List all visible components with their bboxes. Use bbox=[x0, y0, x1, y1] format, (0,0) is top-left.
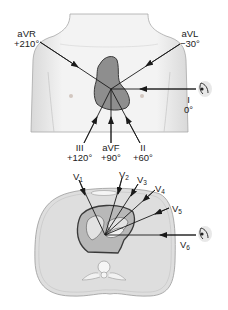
label-avf: aVF +90° bbox=[101, 143, 121, 163]
label-avl: aVL −30° bbox=[180, 29, 200, 49]
label-v6: V6 bbox=[180, 240, 190, 253]
lead-angle: +210° bbox=[14, 39, 39, 49]
label-ii: II +60° bbox=[133, 143, 153, 163]
lead-angle: +60° bbox=[133, 153, 153, 163]
lead-angle: +90° bbox=[101, 153, 121, 163]
lead-angle: 0° bbox=[184, 105, 193, 115]
thorax-cross-section bbox=[35, 188, 175, 296]
label-v2: V2 bbox=[119, 170, 129, 183]
label-v1: V1 bbox=[73, 172, 83, 185]
label-v4: V4 bbox=[155, 184, 165, 197]
lead-angle: +120° bbox=[67, 153, 92, 163]
label-avr: aVR +210° bbox=[14, 29, 39, 49]
label-i: I 0° bbox=[184, 95, 193, 115]
eye-icon-horizontal bbox=[198, 226, 212, 242]
eye-icon-frontal bbox=[198, 81, 212, 97]
lead-angle: −30° bbox=[180, 39, 200, 49]
label-iii: III +120° bbox=[67, 143, 92, 163]
label-v5: V5 bbox=[172, 204, 182, 217]
label-v3: V3 bbox=[137, 175, 147, 188]
